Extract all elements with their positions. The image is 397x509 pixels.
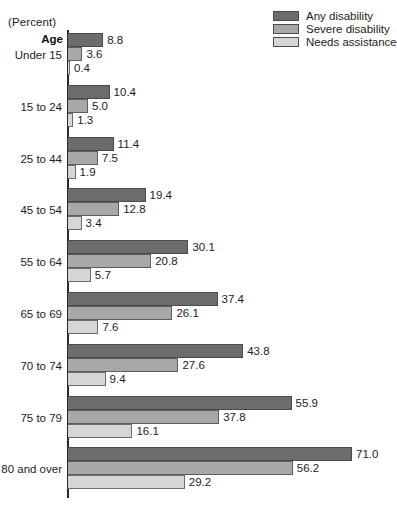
- bar-value-label: 26.1: [176, 306, 198, 320]
- bar-value-label: 37.8: [223, 410, 245, 424]
- bar-value-label: 5.7: [95, 268, 111, 282]
- category-label: 80 and over: [0, 462, 62, 476]
- bar-group: Under 158.83.60.4: [0, 33, 397, 79]
- bar-any: [68, 447, 352, 461]
- bar-row: 29.2: [68, 475, 211, 489]
- bar-value-label: 20.8: [155, 254, 177, 268]
- bar-severe: [68, 358, 178, 372]
- bar-row: 43.8: [68, 344, 270, 358]
- bar-row: 3.6: [68, 47, 102, 61]
- bar-row: 0.4: [68, 61, 90, 75]
- bar-row: 3.4: [68, 216, 102, 230]
- bar-row: 26.1: [68, 306, 199, 320]
- bar-any: [68, 85, 110, 99]
- bar-severe: [68, 410, 219, 424]
- bar-value-label: 71.0: [356, 447, 378, 461]
- legend-item-any: Any disability: [273, 10, 395, 22]
- category-label: 45 to 54: [0, 203, 62, 217]
- bar-row: 11.4: [68, 137, 139, 151]
- bar-needs: [68, 475, 185, 489]
- bar-value-label: 55.9: [296, 396, 318, 410]
- bar-value-label: 10.4: [114, 85, 136, 99]
- bar-value-label: 29.2: [189, 475, 211, 489]
- bar-severe: [68, 461, 293, 475]
- bar-group: 55 to 6430.120.85.7: [0, 240, 397, 286]
- bar-value-label: 30.1: [192, 240, 214, 254]
- bar-value-label: 37.4: [222, 292, 244, 306]
- bar-needs: [68, 216, 82, 230]
- bar-group: 75 to 7955.937.816.1: [0, 396, 397, 442]
- bar-row: 1.3: [68, 113, 93, 127]
- bar-severe: [68, 99, 88, 113]
- legend-label-any: Any disability: [306, 10, 373, 22]
- bar-needs: [68, 268, 91, 282]
- bar-group: 45 to 5419.412.83.4: [0, 188, 397, 234]
- bar-needs: [68, 113, 73, 127]
- bar-value-label: 8.8: [107, 33, 123, 47]
- bar-row: 16.1: [68, 424, 159, 438]
- bar-value-label: 12.8: [123, 202, 145, 216]
- bar-group: 15 to 2410.45.01.3: [0, 85, 397, 131]
- bar-row: 56.2: [68, 461, 319, 475]
- bar-value-label: 1.9: [80, 165, 96, 179]
- bar-severe: [68, 151, 98, 165]
- bar-value-label: 9.4: [110, 372, 126, 386]
- bar-value-label: 27.6: [182, 358, 204, 372]
- bar-group: 80 and over71.056.229.2: [0, 447, 397, 493]
- bar-severe: [68, 306, 172, 320]
- bar-value-label: 3.4: [86, 216, 102, 230]
- bar-value-label: 43.8: [247, 344, 269, 358]
- bar-needs: [68, 424, 132, 438]
- category-label: 70 to 74: [0, 359, 62, 373]
- category-label: 65 to 69: [0, 307, 62, 321]
- bar-any: [68, 33, 103, 47]
- bar-any: [68, 137, 114, 151]
- bar-row: 27.6: [68, 358, 205, 372]
- bar-row: 1.9: [68, 165, 96, 179]
- bar-row: 12.8: [68, 202, 146, 216]
- bar-row: 55.9: [68, 396, 318, 410]
- bar-row: 20.8: [68, 254, 178, 268]
- bar-group: 70 to 7443.827.69.4: [0, 344, 397, 390]
- bar-group: 65 to 6937.426.17.6: [0, 292, 397, 338]
- bar-value-label: 56.2: [297, 461, 319, 475]
- legend-swatch-any: [273, 11, 299, 21]
- bar-value-label: 3.6: [86, 47, 102, 61]
- bar-severe: [68, 202, 119, 216]
- bar-needs: [68, 320, 98, 334]
- bar-any: [68, 396, 292, 410]
- bar-row: 19.4: [68, 188, 172, 202]
- bar-row: 30.1: [68, 240, 215, 254]
- bar-needs: [68, 165, 76, 179]
- category-label: 15 to 24: [0, 100, 62, 114]
- category-label: Under 15: [0, 48, 62, 62]
- bar-needs: [68, 372, 106, 386]
- bar-value-label: 7.5: [102, 151, 118, 165]
- bar-needs: [68, 61, 70, 75]
- percent-note: (Percent): [8, 16, 56, 28]
- bar-row: 8.8: [68, 33, 123, 47]
- category-label: 75 to 79: [0, 411, 62, 425]
- bar-severe: [68, 254, 151, 268]
- bar-row: 9.4: [68, 372, 126, 386]
- bar-value-label: 0.4: [74, 61, 90, 75]
- bar-row: 7.6: [68, 320, 118, 334]
- bar-row: 37.8: [68, 410, 246, 424]
- bar-severe: [68, 47, 82, 61]
- bar-row: 37.4: [68, 292, 244, 306]
- bar-row: 10.4: [68, 85, 136, 99]
- bar-any: [68, 292, 218, 306]
- bar-value-label: 11.4: [118, 137, 140, 151]
- bar-value-label: 1.3: [77, 113, 93, 127]
- bar-row: 5.7: [68, 268, 111, 282]
- bar-row: 7.5: [68, 151, 118, 165]
- category-label: 25 to 44: [0, 152, 62, 166]
- bar-value-label: 19.4: [150, 188, 172, 202]
- bar-value-label: 5.0: [92, 99, 108, 113]
- bar-row: 71.0: [68, 447, 378, 461]
- bar-group: 25 to 4411.47.51.9: [0, 137, 397, 183]
- bar-any: [68, 240, 188, 254]
- category-label: 55 to 64: [0, 255, 62, 269]
- bar-row: 5.0: [68, 99, 108, 113]
- bar-any: [68, 188, 146, 202]
